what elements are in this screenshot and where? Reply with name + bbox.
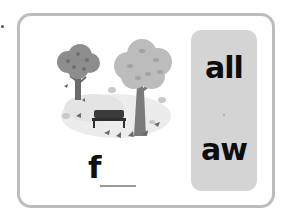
answer-blank[interactable] [100, 185, 136, 187]
first-letter: f [88, 152, 102, 183]
autumn-park-icon [54, 36, 174, 146]
choice-all[interactable]: all [191, 53, 257, 83]
choice-aw[interactable]: aw [191, 135, 257, 165]
phonics-card: f all aw [17, 13, 275, 208]
bullet-dot [1, 25, 4, 28]
word-prompt: f [88, 152, 148, 188]
panel-dot [223, 114, 225, 116]
choices-panel: all aw [191, 30, 257, 191]
